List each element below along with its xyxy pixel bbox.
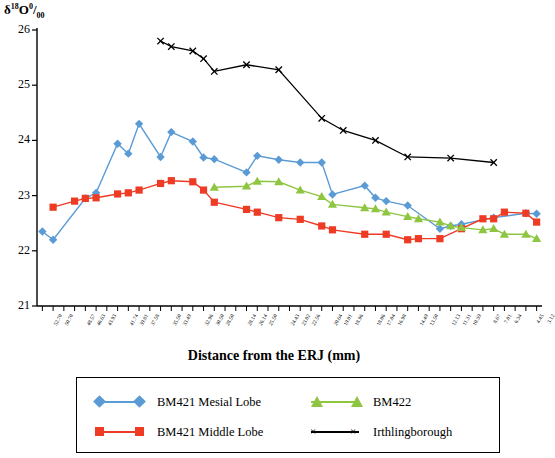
series-bm421-middle-lobe	[50, 177, 541, 243]
legend-marker-square-icon	[91, 425, 147, 439]
plot-area	[0, 0, 548, 345]
legend-item[interactable]: BM421 Mesial Lobe	[91, 392, 261, 412]
x-axis-title: Distance from the ERJ (mm)	[0, 348, 548, 364]
y-axis-tick-label: 23	[6, 188, 30, 203]
legend-marker-glyph: ×	[350, 426, 356, 437]
legend-marker-glyph	[135, 427, 144, 436]
legend-marker-glyph	[351, 396, 363, 407]
y-axis-tick-label: 24	[6, 132, 30, 147]
y-axis-tick-label: 21	[6, 298, 30, 313]
legend-item[interactable]: BM421 Middle Lobe	[91, 422, 263, 442]
y-axis-tick-label: 26	[6, 22, 30, 37]
legend-item-label: BM421 Mesial Lobe	[157, 395, 261, 410]
legend-marker-glyph	[133, 395, 146, 408]
legend-marker-glyph: ×	[310, 426, 316, 437]
series-irthlingborough	[157, 38, 496, 166]
legend-marker-triangle-icon	[307, 395, 363, 409]
legend-marker-x-icon: ××	[307, 425, 363, 439]
legend-item-label: BM421 Middle Lobe	[157, 425, 263, 440]
y-axis-tick-label: 22	[6, 243, 30, 258]
legend-item-label: BM422	[373, 395, 411, 410]
legend-marker-glyph	[311, 396, 323, 407]
legend-marker-glyph	[95, 427, 104, 436]
y-axis-tick-label: 25	[6, 77, 30, 92]
legend-marker-diamond-icon	[91, 395, 147, 409]
legend-item-label: Irthlingborough	[373, 425, 452, 440]
series-bm421-mesial-lobe	[38, 120, 541, 244]
legend-item[interactable]: ××Irthlingborough	[307, 422, 452, 442]
legend-item[interactable]: BM422	[307, 392, 411, 412]
legend-marker-glyph	[93, 395, 106, 408]
chart-legend: BM421 Mesial LobeBM421 Middle LobeBM422×…	[76, 377, 500, 453]
